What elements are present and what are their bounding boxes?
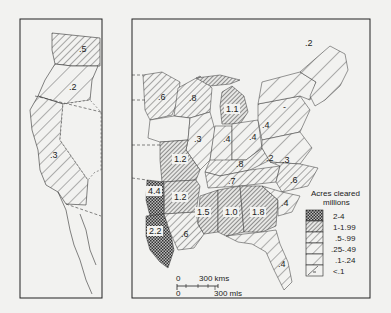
label-michigan: 1.1 <box>226 104 239 114</box>
label-indiana: .4 <box>223 134 231 144</box>
label-kentucky: .8 <box>236 159 244 169</box>
label-oregon: .2 <box>69 82 77 92</box>
label-texas-south: 2.2 <box>149 226 162 236</box>
legend-swatch-medium-hatch <box>306 232 323 243</box>
label-california: .3 <box>50 150 58 160</box>
legend-label-5: <.1 <box>333 267 345 276</box>
label-georgia: 1.8 <box>252 207 265 217</box>
label-wisconsin: .8 <box>189 93 197 103</box>
legend-swatch-sparse-hatch <box>306 243 323 254</box>
west-panel: .5 .2 .3 <box>20 19 102 298</box>
legend-label-4: .1-.24 <box>335 256 356 265</box>
label-missouri: 1.2 <box>174 154 187 164</box>
legend-swatch-crosshatch <box>306 210 323 221</box>
label-alabama: 1.0 <box>225 207 238 217</box>
label-arkansas: 1.2 <box>174 192 187 202</box>
region-washington[interactable] <box>52 33 100 66</box>
legend-swatch-dense-hatch <box>306 221 323 232</box>
label-south-carolina: .4 <box>281 198 289 208</box>
label-virginia-east: .3 <box>282 155 290 165</box>
legend-label-1: 1-1.99 <box>333 223 356 232</box>
legend-subtitle: millions <box>323 198 350 207</box>
label-ohio: .4 <box>249 132 257 142</box>
label-new-england-small: - <box>283 102 286 112</box>
legend-title: Acres cleared <box>311 189 360 198</box>
label-mississippi: 1.5 <box>197 207 210 217</box>
scale-kms-zero: 0 <box>176 274 181 283</box>
forest-clearing-map: .5 .2 .3 <box>0 0 391 313</box>
label-pennsylvania: .4 <box>262 120 270 130</box>
legend-swatch-very-sparse-hatch <box>306 254 323 265</box>
legend-label-3: .25-.49 <box>331 245 356 254</box>
scale-kms-label: 300 kms <box>199 274 229 283</box>
label-florida: .4 <box>278 259 286 269</box>
scale-mls-zero: 0 <box>176 289 181 298</box>
label-tennessee: .7 <box>228 176 236 186</box>
scale-mls-label: 300 mls <box>214 289 242 298</box>
region-iowa <box>148 116 190 142</box>
east-panel: .6 .8 1.1 .3 .4 .4 .2 .4 - 1.2 .8 .2 .3 … <box>132 19 370 298</box>
label-texas-north: 4.4 <box>148 186 161 196</box>
label-virginia-west: .2 <box>266 153 274 163</box>
label-illinois: .3 <box>194 134 202 144</box>
label-minnesota: .6 <box>158 92 166 102</box>
label-washington: .5 <box>79 44 87 54</box>
legend-label-0: 2-4 <box>333 212 345 221</box>
label-louisiana: .6 <box>181 229 189 239</box>
label-maine: .2 <box>305 38 313 48</box>
legend-label-2: .5-.99 <box>335 234 356 243</box>
label-north-carolina: .6 <box>290 175 298 185</box>
